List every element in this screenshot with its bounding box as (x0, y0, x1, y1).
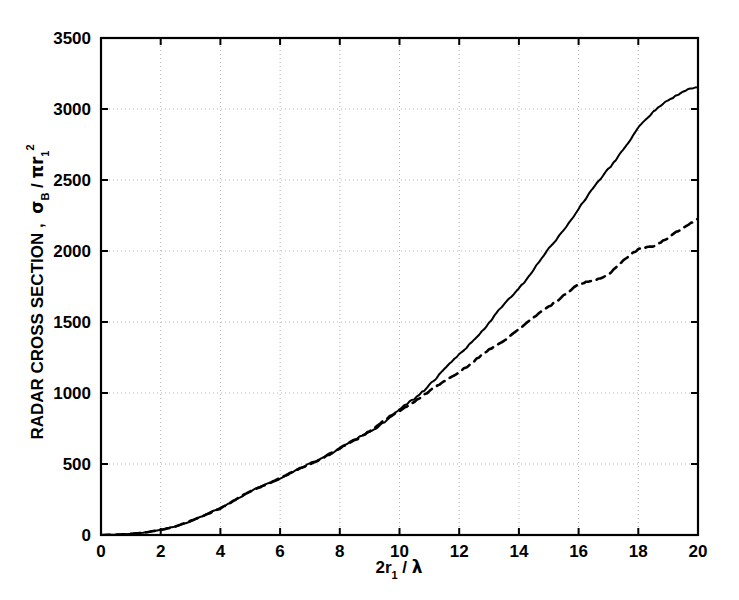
y-axis-title-sigma: σ (27, 201, 47, 214)
x-tick-label: 20 (689, 542, 708, 561)
y-tick-label: 0 (82, 526, 91, 545)
x-tick-label: 16 (569, 542, 588, 561)
y-axis-title-sigma-subscript: B (39, 193, 51, 201)
x-axis-title-lambda: λ (412, 557, 423, 577)
y-axis-title-main: RADAR CROSS SECTION , (28, 223, 47, 439)
y-tick-label: 2000 (53, 242, 91, 261)
x-tick-label: 4 (216, 542, 226, 561)
y-tick-label: 2500 (53, 171, 91, 190)
y-tick-label: 3000 (53, 100, 91, 119)
x-axis-title-lead: 2r (375, 558, 391, 577)
y-tick-label: 3500 (53, 29, 91, 48)
figure-background (0, 0, 739, 600)
y-tick-label: 500 (63, 455, 91, 474)
y-axis-title-r-superscript: 2 (24, 144, 36, 150)
x-tick-label: 14 (509, 542, 528, 561)
x-axis-title-slash: / (398, 558, 412, 577)
x-tick-label: 8 (335, 542, 344, 561)
x-tick-label: 12 (450, 542, 469, 561)
y-axis-title-slash: / (28, 178, 47, 192)
y-tick-label: 1500 (53, 313, 91, 332)
y-axis-title-pi-r: πr (27, 156, 47, 178)
radar-cross-section-line-chart: 02468101214161820 0500100015002000250030… (0, 0, 739, 600)
chart-figure: 02468101214161820 0500100015002000250030… (0, 0, 739, 600)
x-tick-label: 18 (629, 542, 648, 561)
y-tick-label: 1000 (53, 384, 91, 403)
x-tick-label: 0 (96, 542, 105, 561)
svg-text:RADAR CROSS SECTION , σB / πr: RADAR CROSS SECTION , σB / πr12 (24, 144, 51, 439)
y-axis-title-r-subscript: 1 (39, 151, 51, 157)
x-tick-label: 2 (156, 542, 165, 561)
y-axis-title: RADAR CROSS SECTION , σB / πr12 (24, 144, 51, 439)
x-tick-label: 6 (275, 542, 284, 561)
